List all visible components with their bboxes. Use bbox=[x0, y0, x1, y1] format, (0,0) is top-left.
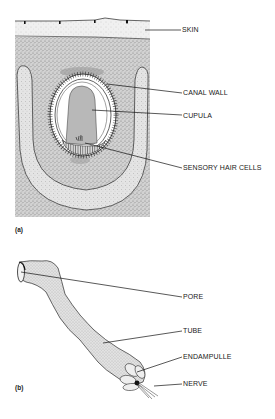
label-cupula: CUPULA bbox=[183, 112, 212, 120]
panel-a-illustration bbox=[15, 18, 182, 217]
panel-b-illustration bbox=[18, 261, 183, 399]
label-pore: PORE bbox=[183, 293, 203, 301]
label-nerve: NERVE bbox=[183, 380, 208, 388]
label-sensory-hair-cells: SENSORY HAIR CELLS bbox=[183, 164, 262, 172]
label-endampulle: ENDAMPULLE bbox=[183, 353, 231, 361]
label-skin: SKIN bbox=[182, 26, 199, 34]
label-canal-wall: CANAL WALL bbox=[183, 89, 228, 97]
cupula bbox=[66, 86, 97, 145]
diagram-canvas bbox=[0, 0, 275, 419]
label-tube: TUBE bbox=[183, 327, 202, 335]
nerve-fibers bbox=[137, 383, 158, 399]
panel-a-tag: (a) bbox=[15, 226, 23, 233]
panel-b-tag: (b) bbox=[15, 384, 23, 391]
